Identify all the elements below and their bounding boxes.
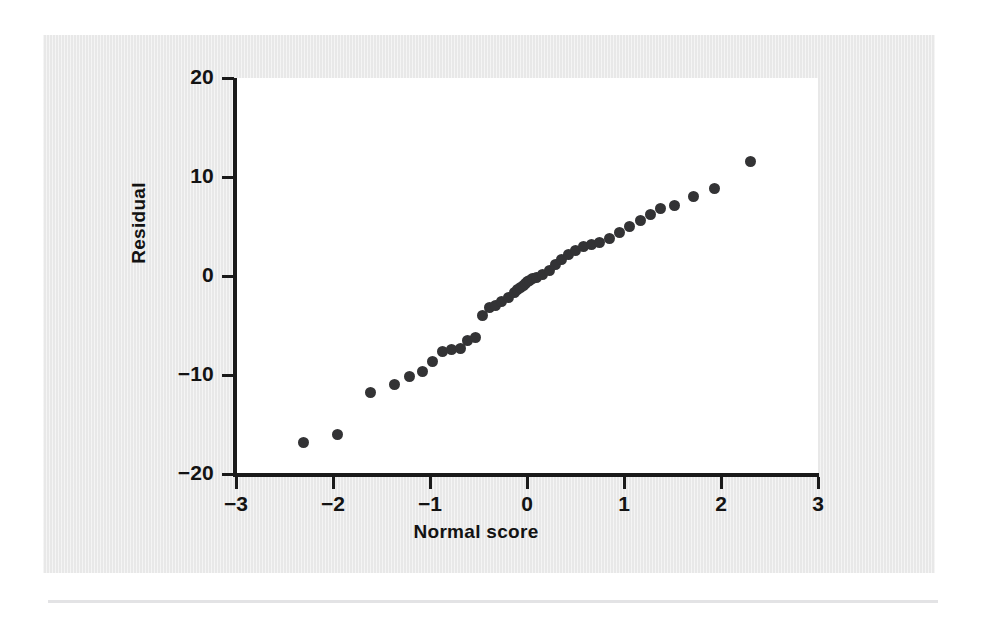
data-point [645, 209, 656, 220]
x-tick-0 [235, 477, 238, 489]
x-tick-1 [332, 477, 335, 489]
data-point [470, 332, 481, 343]
data-point [635, 215, 646, 226]
y-tick-label-2: 0 [154, 263, 214, 287]
data-point [389, 379, 400, 390]
y-tick-3 [222, 176, 234, 179]
y-tick-0 [222, 473, 234, 476]
x-tick-5 [720, 477, 723, 489]
x-tick-4 [623, 477, 626, 489]
data-point [604, 233, 615, 244]
y-tick-1 [222, 374, 234, 377]
y-tick-label-3: 10 [154, 164, 214, 188]
data-point [417, 366, 428, 377]
x-tick-label-3: 0 [497, 492, 557, 516]
y-axis-spine [233, 78, 237, 477]
x-tick-3 [526, 477, 529, 489]
y-tick-2 [222, 275, 234, 278]
y-tick-label-0: −20 [154, 461, 214, 485]
y-tick-label-4: 20 [154, 65, 214, 89]
x-tick-label-0: −3 [206, 492, 266, 516]
footer-rule [48, 600, 938, 603]
x-tick-label-6: 3 [788, 492, 848, 516]
y-tick-label-1: −10 [154, 362, 214, 386]
x-tick-label-2: −1 [400, 492, 460, 516]
y-axis-title: Residual [128, 153, 150, 293]
data-point [745, 156, 756, 167]
x-axis-title: Normal score [366, 521, 586, 543]
x-tick-label-4: 1 [594, 492, 654, 516]
x-tick-label-1: −2 [303, 492, 363, 516]
data-point [614, 227, 625, 238]
x-tick-2 [429, 477, 432, 489]
figure-root: −20−1001020 −3−2−10123 Normal score Resi… [0, 0, 990, 618]
data-point [427, 356, 438, 367]
x-tick-label-5: 2 [691, 492, 751, 516]
x-tick-6 [817, 477, 820, 489]
y-tick-4 [222, 77, 234, 80]
